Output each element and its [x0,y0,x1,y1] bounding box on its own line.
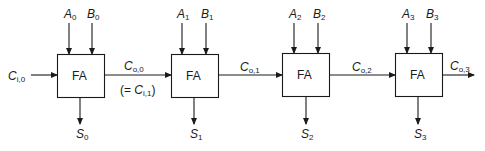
fa-label-1: FA [186,70,201,82]
a3-label: A3 [402,8,414,22]
fa-label-3: FA [410,69,425,81]
cout1-label: Co,1 [240,61,260,75]
s3-label: S3 [414,128,426,142]
a1-label: A1 [177,8,189,22]
s1-label: S1 [190,128,202,142]
cout3-label: Co,3 [450,60,470,74]
fa-label-2: FA [297,69,312,81]
cin1-equivalence-note: (= Ci,1) [120,84,155,98]
b3-label: B3 [426,8,438,22]
b0-label: B0 [87,8,99,22]
a2-label: A2 [289,8,301,22]
s2-label: S2 [301,128,313,142]
b1-label: B1 [201,8,213,22]
carry-in-label: Ci,0 [8,70,25,84]
s0-label: S0 [76,128,88,142]
b2-label: B2 [313,8,325,22]
cout2-label: Co,2 [352,61,372,75]
fa-label-0: FA [72,70,87,82]
a0-label: A0 [64,8,76,22]
cout0-label: Co,0 [124,60,144,74]
